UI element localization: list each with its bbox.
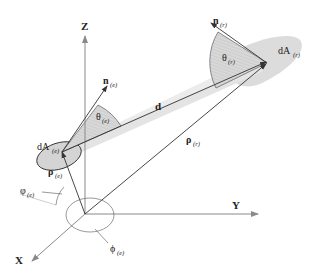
- svg-text:(r): (r): [228, 58, 235, 66]
- z-axis-label: Z: [81, 20, 88, 32]
- svg-text:(e): (e): [102, 117, 109, 125]
- svg-text:dA: dA: [278, 45, 291, 56]
- svg-text:(r): (r): [193, 140, 200, 148]
- svg-text:n: n: [213, 15, 219, 26]
- svg-text:(e): (e): [110, 81, 117, 89]
- svg-text:θ: θ: [96, 111, 101, 122]
- svg-text:(e): (e): [27, 191, 34, 199]
- svg-text:(e): (e): [55, 172, 62, 180]
- svg-text:ϕ: ϕ: [110, 243, 115, 254]
- svg-text:n: n: [103, 75, 109, 86]
- azimuth-ellipse: [66, 198, 114, 232]
- svg-text:ρ: ρ: [48, 166, 53, 177]
- y-axis-label: Y: [232, 199, 240, 211]
- azimuth-leader: [95, 229, 108, 243]
- polar-angle-arc: [56, 187, 64, 205]
- x-axis: [32, 214, 85, 261]
- phi-e-polar-label: φ (e): [20, 185, 34, 199]
- svg-text:(e): (e): [117, 249, 124, 257]
- n-e-label: n (e): [103, 75, 117, 89]
- n-r-label: n (r): [213, 15, 227, 29]
- svg-text:(r): (r): [220, 21, 227, 29]
- svg-text:θ: θ: [222, 52, 227, 63]
- svg-text:(e): (e): [52, 147, 59, 155]
- svg-text:(r): (r): [293, 51, 300, 59]
- svg-text:φ: φ: [20, 185, 26, 196]
- svg-text:dA: dA: [37, 141, 50, 152]
- d-label: d: [155, 100, 161, 112]
- radiation-geometry-diagram: Z Y X n (e) θ (e) d dA (e) ρ (e) φ (e) ϕ…: [0, 0, 316, 278]
- rho-r-label: ρ (r): [186, 134, 200, 148]
- x-axis-label: X: [15, 254, 23, 266]
- svg-text:ρ: ρ: [186, 134, 191, 145]
- azimuth-e-label: ϕ (e): [110, 243, 124, 257]
- phi-e-leader: [42, 192, 62, 194]
